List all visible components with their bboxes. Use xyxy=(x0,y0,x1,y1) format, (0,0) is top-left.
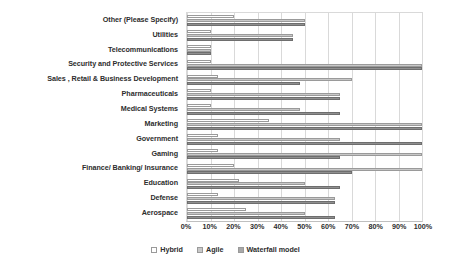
category-label: Utilities xyxy=(0,27,182,42)
legend-label: Waterfall model xyxy=(247,245,300,254)
bar-hybrid xyxy=(187,164,234,167)
bar-agile xyxy=(187,138,340,141)
bar-hybrid xyxy=(187,208,246,211)
bar-agile xyxy=(187,123,422,126)
category-label: Sales , Retail & Business Development xyxy=(0,71,182,86)
bar-hybrid xyxy=(187,104,211,107)
x-tick-label: 90% xyxy=(392,222,406,231)
bar-hybrid xyxy=(187,89,211,92)
x-axis-tick-labels: 0%10%20%30%40%50%60%70%80%90%100% xyxy=(186,222,423,234)
category-label: Security and Protective Services xyxy=(0,57,182,72)
bar-agile xyxy=(187,49,211,52)
bar-agile xyxy=(187,64,422,67)
bar-hybrid xyxy=(187,30,211,33)
bar-waterfall xyxy=(187,38,293,41)
bar-hybrid xyxy=(187,179,239,182)
bar-group xyxy=(187,13,422,28)
category-label: Education xyxy=(0,175,182,190)
bar-group xyxy=(187,102,422,117)
category-label: Pharmaceuticals xyxy=(0,86,182,101)
bar-group xyxy=(187,147,422,162)
bar-hybrid xyxy=(187,15,234,18)
gridline xyxy=(422,13,423,221)
bar-hybrid xyxy=(187,134,218,137)
bar-waterfall xyxy=(187,82,300,85)
category-label: Government xyxy=(0,131,182,146)
bar-agile xyxy=(187,34,293,37)
category-label: Aerospace xyxy=(0,205,182,220)
bar-group xyxy=(187,28,422,43)
bar-waterfall xyxy=(187,52,211,55)
x-tick-label: 10% xyxy=(202,222,216,231)
horizontal-bar-chart: Other (Please Specify)UtilitiesTelecommu… xyxy=(0,0,451,274)
legend-swatch-icon xyxy=(238,247,244,253)
x-tick-label: 70% xyxy=(345,222,359,231)
bar-hybrid xyxy=(187,75,218,78)
x-tick-label: 30% xyxy=(250,222,264,231)
bar-agile xyxy=(187,168,422,171)
bar-waterfall xyxy=(187,127,422,130)
bar-waterfall xyxy=(187,112,340,115)
category-label: Telecommunications xyxy=(0,42,182,57)
legend-item-agile[interactable]: Agile xyxy=(197,245,224,254)
bar-hybrid xyxy=(187,149,218,152)
legend-swatch-icon xyxy=(197,247,203,253)
category-label: Gaming xyxy=(0,146,182,161)
bar-group xyxy=(187,72,422,87)
bar-waterfall xyxy=(187,23,305,26)
bar-agile xyxy=(187,78,352,81)
x-tick-label: 80% xyxy=(368,222,382,231)
bar-hybrid xyxy=(187,60,211,63)
category-label: Other (Please Specify) xyxy=(0,12,182,27)
x-tick-label: 50% xyxy=(297,222,311,231)
bar-agile xyxy=(187,212,305,215)
x-tick-label: 60% xyxy=(321,222,335,231)
bar-agile xyxy=(187,108,300,111)
bar-hybrid xyxy=(187,45,211,48)
bar-agile xyxy=(187,153,422,156)
x-tick-label: 100% xyxy=(414,222,432,231)
legend-label: Agile xyxy=(206,245,224,254)
bar-agile xyxy=(187,182,305,185)
category-label: Finance/ Banking/ Insurance xyxy=(0,161,182,176)
bar-group xyxy=(187,87,422,102)
bar-agile xyxy=(187,197,335,200)
bar-group xyxy=(187,176,422,191)
category-label: Medical Systems xyxy=(0,101,182,116)
plot-area xyxy=(186,12,423,222)
legend-item-waterfall[interactable]: Waterfall model xyxy=(238,245,300,254)
bar-waterfall xyxy=(187,67,422,70)
legend-label: Hybrid xyxy=(160,245,183,254)
bar-group xyxy=(187,43,422,58)
bar-waterfall xyxy=(187,216,335,219)
x-tick-label: 20% xyxy=(226,222,240,231)
bar-hybrid xyxy=(187,119,269,122)
chart-legend: HybridAgileWaterfall model xyxy=(0,245,451,254)
bar-group xyxy=(187,191,422,206)
bar-agile xyxy=(187,93,340,96)
bar-group xyxy=(187,117,422,132)
category-label: Marketing xyxy=(0,116,182,131)
bar-waterfall xyxy=(187,97,340,100)
bar-rows xyxy=(187,13,422,221)
legend-swatch-icon xyxy=(151,247,157,253)
bar-agile xyxy=(187,19,305,22)
x-tick-label: 0% xyxy=(181,222,191,231)
bar-waterfall xyxy=(187,186,340,189)
bar-waterfall xyxy=(187,142,422,145)
x-tick-label: 40% xyxy=(274,222,288,231)
bar-group xyxy=(187,132,422,147)
category-label: Defense xyxy=(0,190,182,205)
bar-group xyxy=(187,58,422,73)
bar-group xyxy=(187,206,422,221)
legend-item-hybrid[interactable]: Hybrid xyxy=(151,245,183,254)
category-axis-labels: Other (Please Specify)UtilitiesTelecommu… xyxy=(0,12,182,220)
bar-waterfall xyxy=(187,156,340,159)
bar-group xyxy=(187,162,422,177)
bar-waterfall xyxy=(187,171,352,174)
bar-waterfall xyxy=(187,201,335,204)
bar-hybrid xyxy=(187,193,218,196)
